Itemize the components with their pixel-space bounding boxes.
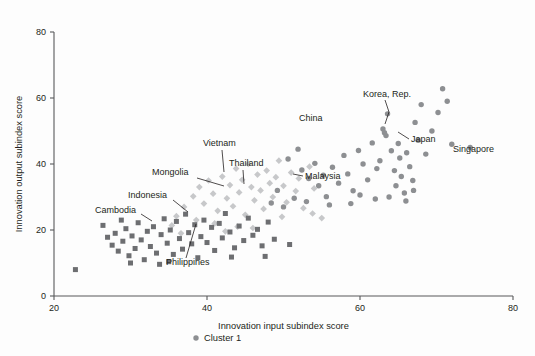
data-point-1-47	[304, 199, 309, 204]
data-point-3-9	[133, 246, 138, 251]
data-point-3-31	[201, 218, 206, 223]
data-point-1-46	[292, 196, 297, 201]
leader-line	[141, 214, 152, 221]
data-point-3-43	[250, 233, 255, 238]
annotation-korea-rep: Korea, Rep.	[363, 89, 411, 124]
legend-label-1: Cluster 1	[204, 333, 241, 343]
data-point-2-24	[273, 174, 280, 181]
data-point-1-35	[418, 102, 423, 107]
data-point-1-43	[275, 188, 280, 193]
data-point-1-2	[299, 167, 304, 172]
data-point-3-12	[142, 257, 147, 262]
x-tick-label-20: 20	[49, 303, 59, 313]
data-point-3-4	[116, 249, 121, 254]
data-point-1-26	[396, 141, 401, 146]
data-point-3-25	[183, 212, 188, 217]
data-point-2-10	[230, 203, 237, 210]
data-point-2-18	[254, 171, 261, 178]
data-point-3-19	[165, 241, 170, 246]
data-point-2-26	[280, 182, 287, 189]
data-point-1-4	[312, 161, 317, 166]
data-point-2-7	[219, 173, 226, 180]
data-point-3-8	[130, 233, 135, 238]
data-point-1-52	[386, 194, 391, 199]
data-point-3-33	[209, 225, 214, 230]
data-point-3-23	[177, 236, 182, 241]
data-point-3-49	[157, 262, 162, 267]
data-point-1-21	[383, 133, 388, 138]
data-points-group	[73, 86, 473, 272]
y-tick-label-60: 60	[36, 93, 46, 103]
data-point-2-28	[288, 169, 295, 176]
annotation-label: Malaysia	[305, 171, 341, 181]
legend-item-1[interactable]: Cluster 1	[193, 333, 241, 343]
leader-line	[293, 174, 303, 176]
data-point-1-39	[440, 86, 445, 91]
data-point-1-45	[281, 204, 286, 209]
annotation-label: Vietnam	[203, 138, 236, 148]
annotation-china: China	[299, 113, 323, 123]
data-point-1-1	[295, 146, 300, 151]
data-point-3-11	[139, 237, 144, 242]
leader-line	[222, 150, 224, 172]
data-point-1-9	[336, 180, 341, 185]
data-point-1-14	[360, 161, 365, 166]
annotation-label: Japan	[411, 134, 436, 144]
data-point-2-42	[318, 215, 325, 222]
data-point-2-8	[224, 195, 231, 202]
data-point-3-13	[145, 229, 150, 234]
legend-marker-1	[193, 335, 198, 340]
data-point-1-51	[373, 196, 378, 201]
data-point-2-25	[276, 157, 283, 164]
data-point-3-1	[105, 235, 110, 240]
data-point-2-20	[260, 206, 267, 213]
data-point-3-50	[100, 223, 105, 228]
data-point-2-13	[239, 176, 246, 183]
plot-canvas: 02040608020406080Innovation input subind…	[0, 0, 535, 356]
y-tick-label-40: 40	[36, 159, 46, 169]
data-point-3-17	[159, 232, 164, 237]
data-point-3-15	[151, 224, 156, 229]
data-point-3-53	[229, 255, 234, 260]
data-point-2-5	[210, 190, 217, 197]
data-point-1-37	[429, 128, 434, 133]
data-point-1-44	[269, 200, 274, 205]
leader-line	[398, 132, 409, 139]
data-point-3-51	[119, 218, 124, 223]
y-tick-label-20: 20	[36, 225, 46, 235]
annotation-singapore: Singapore	[453, 144, 494, 154]
data-point-2-30	[295, 175, 302, 182]
data-point-3-20	[168, 228, 173, 233]
data-point-1-16	[370, 140, 375, 145]
x-tick-label-80: 80	[508, 303, 518, 313]
data-point-1-10	[341, 153, 346, 158]
data-point-1-11	[345, 171, 350, 176]
scatter-chart: 02040608020406080Innovation input subind…	[0, 0, 535, 356]
annotation-indonesia: Indonesia	[128, 190, 188, 212]
data-point-1-53	[403, 198, 408, 203]
annotation-label: Mongolia	[152, 167, 189, 177]
annotation-label: Singapore	[453, 144, 494, 154]
data-point-2-9	[227, 182, 234, 189]
data-point-1-8	[330, 165, 335, 170]
annotation-label: Philippines	[166, 257, 210, 267]
data-point-3-34	[212, 248, 217, 253]
annotation-label: China	[299, 113, 323, 123]
data-point-3-10	[136, 220, 141, 225]
y-tick-label-80: 80	[36, 27, 46, 37]
data-point-3-41	[241, 238, 246, 243]
data-point-1-48	[327, 202, 332, 207]
data-point-1-13	[356, 148, 361, 153]
data-point-3-32	[205, 240, 210, 245]
data-point-3-48	[128, 261, 133, 266]
data-point-3-30	[198, 234, 203, 239]
data-point-3-47	[272, 237, 277, 242]
leader-line	[186, 224, 196, 258]
data-point-2-40	[279, 213, 286, 220]
data-point-3-28	[192, 222, 197, 227]
data-point-3-5	[120, 239, 125, 244]
annotations-group: Korea, Rep.JapanSingaporeChinaVietnamTha…	[95, 89, 494, 267]
data-point-2-16	[248, 184, 255, 191]
data-point-1-27	[397, 155, 402, 160]
annotation-label: Korea, Rep.	[363, 89, 411, 99]
